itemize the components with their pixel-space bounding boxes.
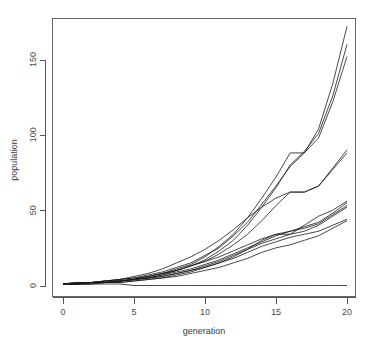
- y-axis-title: population: [9, 139, 19, 181]
- y-tick-label: 50: [28, 205, 38, 215]
- x-tick-label: 5: [131, 307, 136, 317]
- figure-canvas: Population growth simulation replicates …: [0, 0, 370, 350]
- population-line-chart: 05101520 050100150 generation population: [0, 0, 370, 350]
- y-tick-label: 100: [28, 127, 38, 142]
- x-tick-label: 15: [271, 307, 281, 317]
- x-tick-label: 20: [342, 307, 352, 317]
- x-axis-title: generation: [183, 326, 226, 336]
- y-tick-label: 0: [28, 283, 38, 288]
- y-tick-label: 150: [28, 52, 38, 67]
- x-tick-label: 10: [200, 307, 210, 317]
- x-tick-label: 0: [60, 307, 65, 317]
